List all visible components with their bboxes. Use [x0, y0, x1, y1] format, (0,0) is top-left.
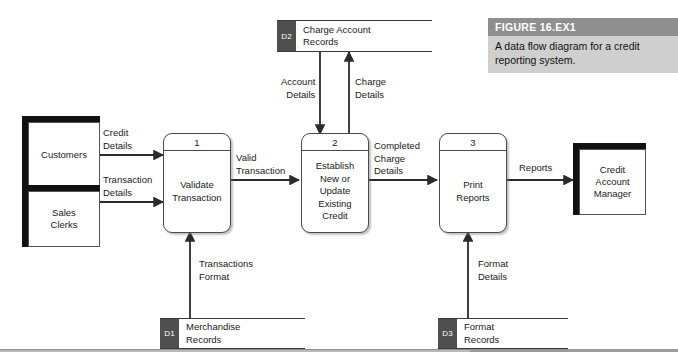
entity-manager-line3: Manager [594, 188, 632, 200]
entity-manager-line2: Account [594, 176, 632, 188]
process-2-line2: New or [316, 173, 355, 186]
entity-credit-account-manager[interactable]: Credit Account Manager [573, 143, 646, 215]
flow-label-credit-details: Credit Details [103, 127, 132, 152]
process-1-validate-transaction[interactable]: 1 Validate Transaction [163, 133, 231, 233]
datastore-d3-line1: Format [464, 321, 568, 334]
process-2-number: 2 [302, 134, 368, 151]
flow-label-format-details-line2: Details [478, 271, 508, 284]
flow-label-account-details: Account Details [281, 76, 315, 101]
datastore-d2-id: D2 [277, 21, 296, 51]
flow-label-completed-charge-details-line1: Completed [374, 140, 420, 153]
process-3-line1: Print [456, 179, 489, 192]
entity-sales-clerks-label: Sales Clerks [28, 191, 100, 247]
figure-caption-title: FIGURE 16.EX1 [488, 18, 678, 36]
entity-sales-clerks[interactable]: Sales Clerks [22, 185, 100, 247]
flow-label-account-details-line1: Account [281, 76, 315, 89]
flow-label-transactions-format: Transactions Format [199, 258, 253, 283]
flow-label-completed-charge-details: Completed Charge Details [374, 140, 420, 178]
entity-customers[interactable]: Customers [22, 116, 100, 188]
flow-label-valid-transaction-line2: Transaction [236, 165, 285, 178]
flow-label-transaction-details-line2: Details [103, 187, 152, 200]
data-flow-diagram: Customers Sales Clerks Credit Account Ma… [0, 0, 678, 361]
flow-label-transaction-details-line1: Transaction [103, 174, 152, 187]
datastore-d2-charge-account-records[interactable]: D2 Charge Account Records [277, 20, 432, 52]
datastore-d1-merchandise-records[interactable]: D1 Merchandise Records [160, 318, 305, 349]
entity-customers-label: Customers [28, 122, 100, 188]
datastore-d2-line1: Charge Account [303, 24, 432, 37]
footer-divider-right [470, 349, 678, 352]
process-2-line4: Existing [316, 198, 355, 211]
flow-label-charge-details-line2: Details [355, 89, 386, 102]
flow-label-reports: Reports [519, 162, 552, 175]
flow-label-credit-details-line1: Credit [103, 127, 132, 140]
flow-label-charge-details: Charge Details [355, 76, 386, 101]
datastore-d2-line2: Records [303, 36, 432, 49]
flow-label-valid-transaction-line1: Valid [236, 152, 285, 165]
flow-label-transactions-format-line2: Format [199, 271, 253, 284]
figure-caption-description: A data flow diagram for a credit reporti… [488, 36, 678, 73]
flow-label-completed-charge-details-line2: Charge [374, 153, 420, 166]
figure-caption: FIGURE 16.EX1 A data flow diagram for a … [488, 18, 678, 73]
datastore-d1-id: D1 [160, 319, 179, 348]
entity-sales-clerks-line1: Sales [51, 207, 78, 219]
flow-label-format-details: Format Details [478, 258, 508, 283]
flow-label-completed-charge-details-line3: Details [374, 165, 420, 178]
flow-label-valid-transaction: Valid Transaction [236, 152, 285, 177]
flow-label-account-details-line2: Details [281, 89, 315, 102]
flow-label-transactions-format-line1: Transactions [199, 258, 253, 271]
datastore-d3-line2: Records [464, 334, 568, 347]
datastore-d3-id: D3 [438, 319, 457, 348]
process-2-line1: Establish [316, 160, 355, 173]
flow-label-reports-text: Reports [519, 162, 552, 175]
process-3-label: Print Reports [440, 151, 506, 232]
datastore-d1-line2: Records [186, 334, 305, 347]
process-3-number: 3 [440, 134, 506, 151]
datastore-d1-name: Merchandise Records [179, 319, 305, 348]
entity-manager-line1: Credit [594, 164, 632, 176]
flow-label-credit-details-line2: Details [103, 140, 132, 153]
datastore-d1-line1: Merchandise [186, 321, 305, 334]
process-2-line3: Update [316, 185, 355, 198]
process-2-establish-update-credit[interactable]: 2 Establish New or Update Existing Credi… [301, 133, 369, 233]
process-1-label: Validate Transaction [164, 151, 230, 232]
flow-label-format-details-line1: Format [478, 258, 508, 271]
flow-label-transaction-details: Transaction Details [103, 174, 152, 199]
datastore-d2-name: Charge Account Records [296, 21, 432, 51]
process-3-line2: Reports [456, 192, 489, 205]
process-3-print-reports[interactable]: 3 Print Reports [439, 133, 507, 233]
datastore-d3-format-records[interactable]: D3 Format Records [438, 318, 568, 349]
flow-label-charge-details-line1: Charge [355, 76, 386, 89]
process-2-label: Establish New or Update Existing Credit [302, 151, 368, 232]
process-2-line5: Credit [316, 210, 355, 223]
entity-sales-clerks-line2: Clerks [51, 219, 78, 231]
process-1-number: 1 [164, 134, 230, 151]
entity-credit-account-manager-label: Credit Account Manager [579, 149, 646, 215]
process-1-line1: Validate [172, 179, 221, 192]
process-1-line2: Transaction [172, 192, 221, 205]
datastore-d3-name: Format Records [457, 319, 568, 348]
